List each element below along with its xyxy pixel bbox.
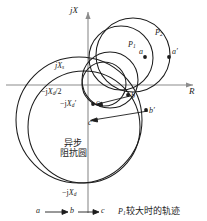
impedance-circles bbox=[16, 57, 142, 183]
point-c bbox=[91, 102, 95, 106]
label-neg-jXd-prime: −jXd′ bbox=[60, 100, 76, 108]
legend-seq-b: b bbox=[70, 207, 74, 215]
legend-seq-a: a bbox=[36, 207, 40, 215]
label-point-c: c bbox=[96, 99, 100, 107]
label-point-b-prime: b′ bbox=[149, 107, 155, 115]
impedance-circle-figure bbox=[0, 0, 207, 221]
axis-label-jX: jX bbox=[70, 6, 78, 15]
label-point-b: b bbox=[131, 92, 135, 100]
label-point-c-prime: c′ bbox=[88, 119, 93, 127]
small-circles bbox=[82, 52, 138, 108]
axis-group bbox=[6, 12, 193, 213]
point-a-prime bbox=[167, 55, 171, 59]
label-point-a: a bbox=[139, 48, 143, 56]
label-neg-jXd-half: −jXd/2 bbox=[41, 88, 62, 96]
axis-label-R: R bbox=[189, 87, 195, 96]
legend-caption: P1较大时的轨迹 bbox=[118, 206, 180, 216]
label-jXs: jXs bbox=[55, 62, 64, 70]
point-b bbox=[126, 93, 130, 97]
label-P2: P2 bbox=[155, 29, 163, 37]
label-neg-jXd: −jXd bbox=[62, 189, 76, 197]
label-P1: P1 bbox=[128, 41, 136, 49]
annotation-impedance-circle: 异步 阻抗圆 bbox=[48, 138, 98, 159]
label-point-a-prime: a′ bbox=[172, 48, 178, 56]
point-a bbox=[143, 55, 147, 59]
legend-seq-c: c bbox=[101, 207, 105, 215]
point-b-prime bbox=[144, 108, 148, 112]
data-points bbox=[91, 55, 171, 112]
